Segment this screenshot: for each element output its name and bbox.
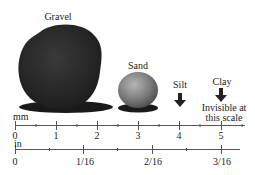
mm-tick-label: 1 xyxy=(54,131,59,141)
in-unit-label: in xyxy=(14,139,22,149)
in-tick-label: 2/16 xyxy=(144,157,162,167)
clay-note-line2: this scale xyxy=(206,113,243,123)
sand-label: Sand xyxy=(128,61,148,71)
mm-tick-label: 5 xyxy=(219,131,224,141)
silt-arrow-icon xyxy=(174,93,186,107)
inch-ruler xyxy=(15,145,240,154)
in-tick-label: 3/16 xyxy=(213,157,231,167)
mm-unit-label: mm xyxy=(13,112,29,122)
sand-particle xyxy=(118,72,158,108)
silt-label: Silt xyxy=(173,80,187,90)
in-tick-label: 1/16 xyxy=(76,157,94,167)
mm-tick-label: 4 xyxy=(177,131,182,141)
mm-tick-label: 2 xyxy=(95,131,100,141)
diagram-canvas xyxy=(0,0,255,175)
clay-arrow-icon xyxy=(215,88,227,102)
gravel-particle xyxy=(18,24,101,108)
mm-tick-label: 3 xyxy=(136,131,141,141)
gravel-label: Gravel xyxy=(44,12,71,22)
clay-label: Clay xyxy=(213,77,232,87)
in-tick-label: 0 xyxy=(13,157,18,167)
